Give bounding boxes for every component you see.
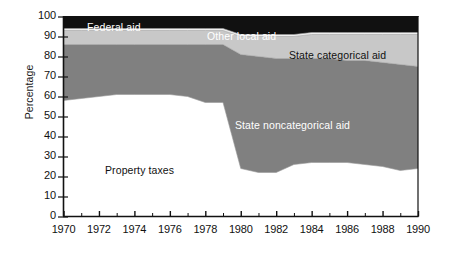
x-axis-tick-label: 1984 xyxy=(292,223,332,235)
x-axis-tick-label: 1982 xyxy=(256,223,296,235)
x-axis-tick-label: 1980 xyxy=(221,223,261,235)
series-label-state-categorical-aid: State categorical aid xyxy=(289,49,386,61)
series-label-federal-aid: Federal aid xyxy=(87,21,141,33)
y-axis-tick-label: 20 xyxy=(30,169,56,181)
y-axis-tick-label: 60 xyxy=(30,89,56,101)
x-axis-tick-label: 1974 xyxy=(114,223,154,235)
x-axis-tick-label: 1990 xyxy=(398,223,438,235)
y-axis-tick-label: 90 xyxy=(30,29,56,41)
y-axis-tick-label: 40 xyxy=(30,129,56,141)
y-axis-tick-label: 10 xyxy=(30,189,56,201)
x-axis-tick-label: 1976 xyxy=(150,223,190,235)
area-bands xyxy=(64,17,419,217)
series-label-property-taxes: Property taxes xyxy=(105,164,174,176)
y-axis-tick-label: 0 xyxy=(30,209,56,221)
x-axis-tick-label: 1988 xyxy=(363,223,403,235)
x-axis-tick-label: 1986 xyxy=(327,223,367,235)
y-axis-tick-label: 80 xyxy=(30,49,56,61)
y-axis-tick-label: 70 xyxy=(30,69,56,81)
series-label-other-local-aid: Other local aid xyxy=(207,30,276,42)
y-axis-tick-label: 50 xyxy=(30,109,56,121)
x-axis-tick-label: 1970 xyxy=(44,223,84,235)
stacked-area-chart: Percentage 0102030405060708090100 197019… xyxy=(0,0,451,262)
x-axis-tick-label: 1972 xyxy=(79,223,119,235)
y-axis-tick-label: 30 xyxy=(30,149,56,161)
y-axis-tick-label: 100 xyxy=(30,9,56,21)
series-label-state-noncategorical-aid: State noncategorical aid xyxy=(235,119,350,131)
x-axis-tick-label: 1978 xyxy=(185,223,225,235)
